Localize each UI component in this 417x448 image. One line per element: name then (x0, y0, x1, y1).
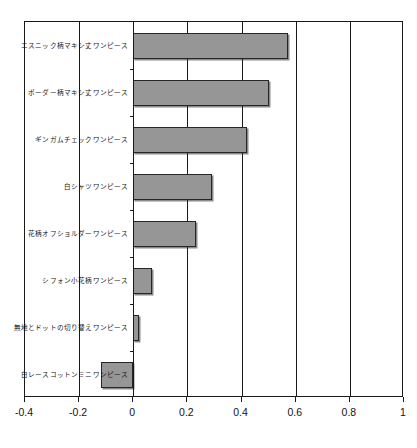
bar-row: 白レースコットンミニワンピース (25, 351, 402, 398)
x-axis-tick (295, 397, 296, 402)
category-label: 花柄オフショルダーワンピース (28, 230, 128, 237)
x-axis-tick-label: 0.4 (233, 406, 248, 418)
bar (133, 127, 247, 153)
x-axis-tick-label: 0 (129, 406, 135, 418)
category-tick (130, 210, 133, 211)
x-axis-tick-label: -0.4 (15, 406, 33, 418)
category-tick (130, 69, 133, 70)
x-axis-tick-label: -0.2 (69, 406, 87, 418)
x-axis-tick (403, 397, 404, 402)
x-axis-tick-label: 0.2 (179, 406, 194, 418)
category-tick (130, 163, 133, 164)
bar-row: 花柄オフショルダーワンピース (25, 210, 402, 257)
category-label: エスニック柄マキシ丈ワンピース (21, 42, 128, 49)
bar (133, 33, 287, 59)
bar (133, 221, 195, 247)
category-label: 白レースコットンミニワンピース (21, 371, 128, 378)
category-label: ギンガムチェックワンピース (35, 136, 128, 143)
bar (133, 268, 152, 294)
bar-row: エスニック柄マキシ丈ワンピース (25, 22, 402, 69)
x-axis-tick-label: 1 (400, 406, 406, 418)
x-axis-tick-label: 0.8 (342, 406, 357, 418)
x-axis-tick (78, 397, 79, 402)
category-tick (130, 116, 133, 117)
bar-row: シフォン小花柄ワンピース (25, 257, 402, 304)
bar (133, 80, 268, 106)
category-tick (130, 351, 133, 352)
zero-axis-line (133, 22, 134, 396)
bars-layer: エスニック柄マキシ丈ワンピースボーダー柄マキシ丈ワンピースギンガムチェックワンピ… (25, 22, 402, 396)
bar (133, 174, 212, 200)
bar-row: 白シャツワンピース (25, 163, 402, 210)
plot-area: エスニック柄マキシ丈ワンピースボーダー柄マキシ丈ワンピースギンガムチェックワンピ… (24, 21, 403, 397)
category-tick (130, 304, 133, 305)
x-axis-tick-label: 0.6 (287, 406, 302, 418)
category-label: シフォン小花柄ワンピース (42, 277, 128, 284)
bar-chart: エスニック柄マキシ丈ワンピースボーダー柄マキシ丈ワンピースギンガムチェックワンピ… (0, 0, 417, 448)
category-label: 白シャツワンピース (64, 183, 128, 190)
bar-row: ギンガムチェックワンピース (25, 116, 402, 163)
category-label: 無地とドットの切り替えワンピース (14, 324, 128, 331)
category-label: ボーダー柄マキシ丈ワンピース (28, 89, 128, 96)
category-tick (130, 257, 133, 258)
bar-row: ボーダー柄マキシ丈ワンピース (25, 69, 402, 116)
x-axis-tick (24, 397, 25, 402)
x-axis-tick (132, 397, 133, 402)
x-axis-tick (349, 397, 350, 402)
bar-row: 無地とドットの切り替えワンピース (25, 304, 402, 351)
x-axis-tick (186, 397, 187, 402)
x-axis-tick (241, 397, 242, 402)
